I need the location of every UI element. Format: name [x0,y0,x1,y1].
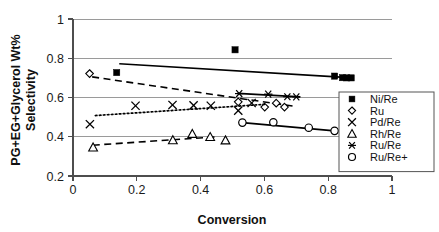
x-axis-tick-labels: 00.20.40.60.81 [70,183,396,197]
y-tick-label: 1 [57,13,64,27]
data-point [331,127,338,134]
x-axis-title: Conversion [198,213,267,227]
y-tick-label: 0.4 [47,130,64,144]
legend-label: Rh/Re [370,128,401,140]
data-point [331,73,337,79]
data-point [348,75,354,81]
legend-label: Pd/Re [370,116,401,128]
y-axis-title-line1: PG+EG+Glycerol Wt% [9,34,23,165]
legend-marker-icon [349,96,355,102]
trendline [119,64,353,78]
data-point [114,69,120,75]
legend-label: Ru [370,105,384,117]
chart-legend: Ni/ReRuPd/ReRh/ReRu/ReRu/Re+ [339,92,434,172]
trendline [93,137,217,145]
scatter-plot: 00.20.40.60.81 0.20.40.60.81 Ni/ReRuPd/R… [0,0,439,232]
data-point [89,143,98,151]
legend-label: Ni/Re [370,93,398,105]
y-axis-tick-labels: 0.20.40.60.81 [47,13,64,184]
x-tick-label: 0.4 [192,183,209,197]
legend-marker-icon [349,154,356,161]
x-tick-label: 0.6 [256,183,273,197]
data-point [305,124,312,131]
data-point [272,99,280,107]
y-tick-label: 0.6 [47,91,64,105]
x-tick-label: 0.8 [320,183,337,197]
y-tick-label: 0.8 [47,52,64,66]
trendline [242,123,334,131]
legend-label: Ru/Re+ [370,151,408,163]
trendline [92,77,293,106]
data-point [188,129,197,137]
y-axis-title-line2: Selectivity [24,69,38,131]
data-point [270,119,277,126]
legend-label: Ru/Re [370,139,401,151]
chart-figure: 00.20.40.60.81 0.20.40.60.81 Ni/ReRuPd/R… [0,0,439,232]
series-rh-re [89,129,230,151]
x-tick-label: 1 [389,183,396,197]
series-ru-re- [239,119,339,135]
data-point [239,119,246,126]
data-series-layer [86,47,354,151]
data-point [232,47,238,53]
x-tick-label: 0.2 [128,183,145,197]
data-point [281,103,289,111]
series-ru [86,70,293,111]
series-ni-re [114,47,355,81]
y-tick-label: 0.2 [47,170,64,184]
x-tick-label: 0 [70,183,77,197]
